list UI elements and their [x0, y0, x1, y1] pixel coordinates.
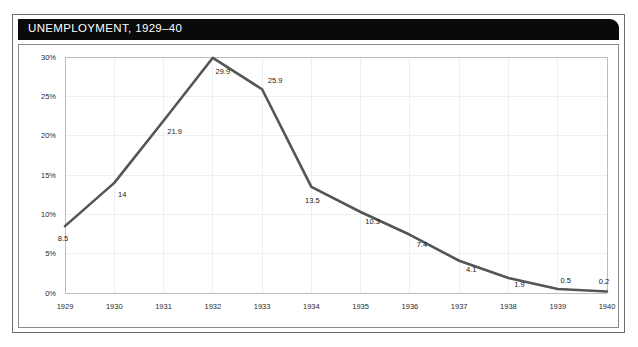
y-tick-label: 15% — [41, 171, 56, 180]
horizontal-gridlines — [65, 57, 607, 293]
x-axis-tick-labels: 1929193019311932193319341935193619371938… — [57, 302, 616, 311]
x-tick-label: 1939 — [549, 302, 566, 311]
x-tick-label: 1933 — [254, 302, 271, 311]
x-tick-label: 1937 — [451, 302, 468, 311]
y-tick-label: 30% — [41, 53, 56, 62]
y-axis-tick-labels: 0%5%10%15%20%25%30% — [41, 53, 56, 298]
x-tick-label: 1931 — [155, 302, 172, 311]
x-tick-label: 1934 — [303, 302, 320, 311]
data-point-label: 10.3 — [365, 217, 380, 226]
y-tick-label: 20% — [41, 131, 56, 140]
data-point-label: 4.1 — [466, 265, 476, 274]
x-tick-label: 1930 — [106, 302, 123, 311]
data-point-label: 21.9 — [167, 127, 182, 136]
data-point-label: 25.9 — [268, 76, 283, 85]
x-tick-label: 1929 — [57, 302, 74, 311]
y-tick-label: 25% — [41, 92, 56, 101]
chart-figure: UNEMPLOYMENT, 1929–40 0%5%10%15%20%25%30… — [0, 0, 638, 347]
data-point-label: 29.9 — [216, 67, 231, 76]
title-banner: UNEMPLOYMENT, 1929–40 — [18, 19, 619, 40]
x-tick-label: 1938 — [500, 302, 517, 311]
data-point-label: 14 — [118, 190, 126, 199]
data-point-label: 7.4 — [417, 240, 427, 249]
x-tick-label: 1940 — [599, 302, 616, 311]
chart-card: 0%5%10%15%20%25%30% 19291930193119321933… — [18, 44, 619, 328]
unemployment-line-chart: 0%5%10%15%20%25%30% 19291930193119321933… — [19, 45, 618, 327]
data-point-label: 1.9 — [514, 280, 524, 289]
x-tick-label: 1932 — [204, 302, 221, 311]
x-tick-label: 1935 — [352, 302, 369, 311]
data-point-label: 0.5 — [561, 276, 571, 285]
y-tick-label: 5% — [45, 249, 56, 258]
data-point-labels: 8.51421.929.925.913.510.37.44.11.90.50.2 — [58, 67, 609, 289]
page-title: UNEMPLOYMENT, 1929–40 — [28, 22, 182, 34]
y-tick-label: 0% — [45, 289, 56, 298]
data-point-label: 0.2 — [599, 277, 609, 286]
data-point-label: 13.5 — [305, 196, 320, 205]
x-tick-label: 1936 — [402, 302, 419, 311]
y-tick-label: 10% — [41, 210, 56, 219]
data-point-label: 8.5 — [58, 234, 68, 243]
